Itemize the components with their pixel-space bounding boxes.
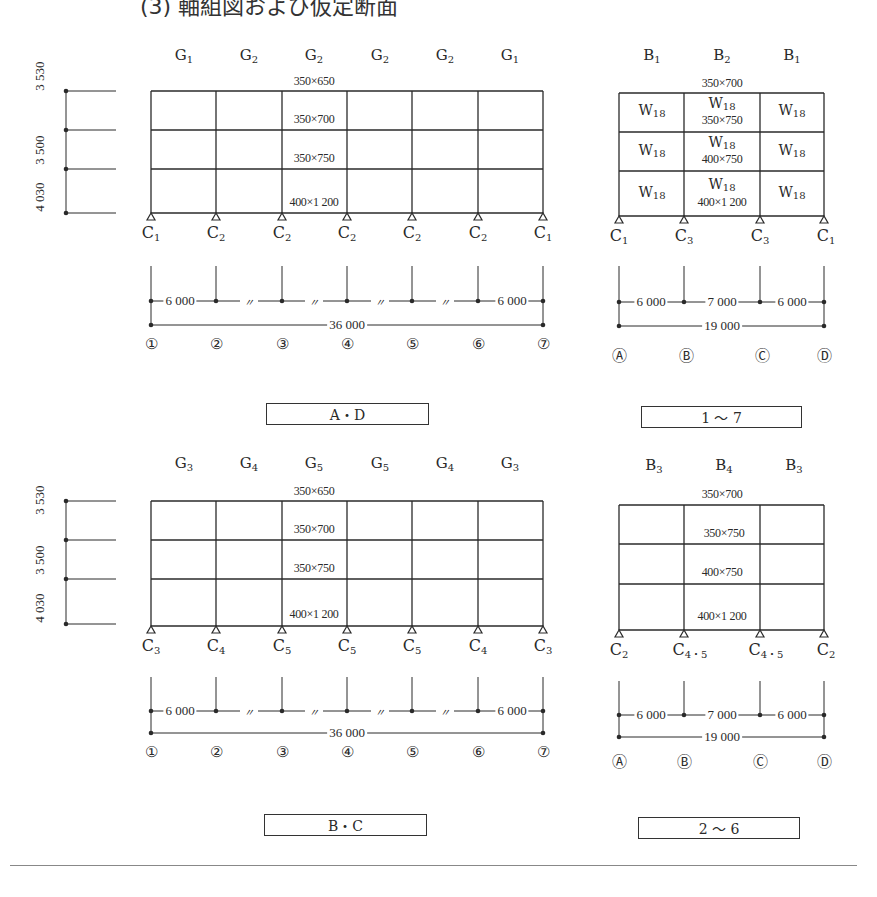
total-dim: 19 000 <box>702 318 742 334</box>
section-f1: 400×1 200 <box>697 195 746 210</box>
wall-label: W18 <box>708 97 735 113</box>
section-roof: 350×700 <box>702 487 743 502</box>
footer-divider <box>10 865 857 866</box>
wall-label: W18 <box>778 186 805 202</box>
axis-marker: ⑤ <box>406 335 419 353</box>
span-dim: 〃 <box>305 704 323 719</box>
frame-caption: 1 ～ 7 <box>641 406 802 428</box>
section-f1: 400×1 200 <box>289 607 338 622</box>
member-label: G5 <box>371 454 389 473</box>
axis-marker: Ⓓ <box>817 344 832 365</box>
span-dim: 6 000 <box>775 707 808 723</box>
wall-label: W18 <box>638 104 665 120</box>
column-label: C4・5 <box>749 640 784 661</box>
span-dim: 〃 <box>371 704 389 719</box>
member-label: B1 <box>783 46 800 65</box>
storey-height: 4 030 <box>30 182 50 211</box>
axis-marker: Ⓑ <box>677 750 692 771</box>
section-f2: 350×750 <box>294 151 335 166</box>
frame-linework <box>0 0 877 897</box>
column-label: C1 <box>534 223 553 243</box>
member-label: G4 <box>436 454 454 473</box>
column-label: C4・5 <box>673 640 708 661</box>
section-f3: 350×700 <box>294 112 335 127</box>
frame-caption: B・C <box>264 814 427 836</box>
total-dim: 19 000 <box>702 729 742 745</box>
section-roof: 350×650 <box>294 484 335 499</box>
member-label: B4 <box>715 456 732 475</box>
column-label: C1 <box>817 226 836 246</box>
span-dim: 6 000 <box>775 294 808 310</box>
column-label: C2 <box>338 223 357 243</box>
member-label: G2 <box>371 46 389 65</box>
wall-label: W18 <box>778 104 805 120</box>
section-f3: 350×750 <box>704 526 745 541</box>
span-dim: 6 000 <box>634 707 667 723</box>
axis-marker: ⑤ <box>406 743 419 761</box>
span-dim: 6 000 <box>495 293 528 309</box>
section-f3: 350×750 <box>702 113 743 128</box>
storey-height: 3 530 <box>30 485 50 514</box>
section-f3: 350×700 <box>294 522 335 537</box>
storey-height: 3 500 <box>30 545 50 574</box>
column-label: C3 <box>142 636 161 656</box>
section-f2: 350×750 <box>294 561 335 576</box>
section-f2: 400×750 <box>702 152 743 167</box>
member-label: G1 <box>175 46 193 65</box>
span-dim: 7 000 <box>705 707 738 723</box>
total-dim: 36 000 <box>327 317 367 333</box>
span-dim: 7 000 <box>705 294 738 310</box>
member-label: B1 <box>643 46 660 65</box>
column-label: C4 <box>207 636 226 656</box>
span-dim: 6 000 <box>495 703 528 719</box>
span-dim: 〃 <box>240 294 258 309</box>
member-label: B2 <box>713 46 730 65</box>
axis-marker: ① <box>145 335 158 353</box>
column-label: C2 <box>207 223 226 243</box>
axis-marker: Ⓐ <box>612 344 627 365</box>
axis-marker: ③ <box>276 335 289 353</box>
member-label: B3 <box>785 456 802 475</box>
section-roof: 350×650 <box>294 74 335 89</box>
column-label: C2 <box>273 223 292 243</box>
wall-label: W18 <box>708 136 735 152</box>
axis-marker: ⑦ <box>537 743 550 761</box>
axis-marker: ② <box>210 335 223 353</box>
storey-height: 3 500 <box>30 135 50 164</box>
column-label: C3 <box>675 226 694 246</box>
column-label: C3 <box>751 226 770 246</box>
member-label: G2 <box>436 46 454 65</box>
column-label: C2 <box>403 223 422 243</box>
wall-label: W18 <box>708 178 735 194</box>
axis-marker: ② <box>210 743 223 761</box>
axis-marker: ⑥ <box>472 743 485 761</box>
column-label: C3 <box>534 636 553 656</box>
axis-marker: Ⓒ <box>755 344 770 365</box>
axis-marker: ③ <box>276 743 289 761</box>
span-dim: 〃 <box>436 704 454 719</box>
span-dim: 〃 <box>305 294 323 309</box>
member-label: B3 <box>645 456 662 475</box>
wall-label: W18 <box>778 144 805 160</box>
column-label: C5 <box>273 636 292 656</box>
storey-height: 4 030 <box>30 593 50 622</box>
span-dim: 6 000 <box>163 293 196 309</box>
span-dim: 〃 <box>436 294 454 309</box>
span-dim: 6 000 <box>634 294 667 310</box>
section-f1: 400×1 200 <box>697 609 746 624</box>
column-label: C5 <box>338 636 357 656</box>
frame-caption: A・D <box>266 403 429 425</box>
column-label: C2 <box>469 223 488 243</box>
frame-ad-grid <box>151 91 543 213</box>
member-label: G2 <box>240 46 258 65</box>
member-label: G1 <box>501 46 519 65</box>
column-label: C1 <box>142 223 161 243</box>
column-label: C2 <box>817 640 836 660</box>
section-f2: 400×750 <box>702 565 743 580</box>
axis-marker: ① <box>145 743 158 761</box>
member-label: G3 <box>175 454 193 473</box>
axis-marker: ④ <box>341 335 354 353</box>
span-dim: 〃 <box>240 704 258 719</box>
column-label: C1 <box>610 226 629 246</box>
axis-marker: ⑥ <box>472 335 485 353</box>
